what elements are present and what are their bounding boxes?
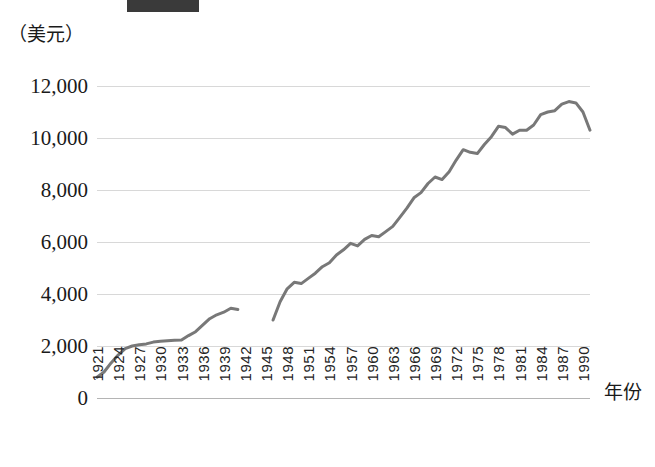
x-axis-tick-label: 1978 <box>491 346 506 381</box>
chart-figure: （美元） 02,0004,0006,0008,00010,00012,000 1… <box>0 0 655 467</box>
x-axis-tick-label: 1987 <box>555 346 570 381</box>
x-axis-tick-label: 1936 <box>196 346 211 381</box>
x-axis-tick-label: 1951 <box>301 346 316 381</box>
y-axis-tick-label: 12,000 <box>30 76 88 97</box>
x-axis-tick-label: 1963 <box>386 346 401 381</box>
x-axis-tick-label: 1966 <box>407 346 422 381</box>
x-axis-tick-label: 1939 <box>217 346 232 381</box>
x-axis-tick-label: 1969 <box>428 346 443 381</box>
y-axis-unit-label: （美元） <box>8 24 84 46</box>
x-axis-tick-label: 1948 <box>280 346 295 381</box>
x-axis-tick-label: 1954 <box>322 346 337 381</box>
y-axis-tick-label: 0 <box>78 388 89 409</box>
x-axis-tick-label: 1930 <box>153 346 168 381</box>
x-axis-title: 年份 <box>604 382 642 404</box>
data-line-segment-2 <box>273 102 590 320</box>
gridline <box>97 398 590 399</box>
x-axis-tick-label: 1972 <box>449 346 464 381</box>
x-axis-tick-label: 1957 <box>344 346 359 381</box>
x-axis-tick-label: 1933 <box>175 346 190 381</box>
x-axis-tick-label: 1924 <box>111 346 126 381</box>
x-axis-tick-label: 1921 <box>90 346 105 381</box>
x-axis-tick-label: 1960 <box>365 346 380 381</box>
x-axis-tick-label: 1927 <box>132 346 147 381</box>
y-axis-tick-label: 8,000 <box>41 180 88 201</box>
y-axis-tick-label: 2,000 <box>41 336 88 357</box>
y-axis-tick-label: 10,000 <box>30 128 88 149</box>
x-axis-tick-label: 1975 <box>470 346 485 381</box>
y-axis-tick-label: 6,000 <box>41 232 88 253</box>
x-axis-tick-label: 1981 <box>513 346 528 381</box>
x-axis-tick-label: 1984 <box>534 346 549 381</box>
x-axis-tick-label: 1945 <box>259 346 274 381</box>
x-axis-tick-label: 1942 <box>238 346 253 381</box>
cropped-header-bar <box>127 0 199 12</box>
x-axis-tick-label: 1990 <box>576 346 591 381</box>
y-axis-tick-label: 4,000 <box>41 284 88 305</box>
